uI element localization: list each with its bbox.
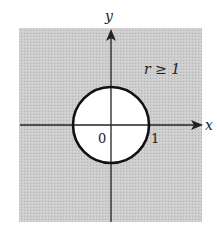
region-label: r ≥ 1	[144, 61, 180, 77]
polar-region-diagram: y x 0 1 r ≥ 1	[0, 0, 217, 227]
x-axis-label: x	[205, 117, 213, 133]
unit-label: 1	[151, 131, 159, 146]
origin-label: 0	[98, 131, 106, 146]
y-axis-label: y	[104, 8, 114, 24]
